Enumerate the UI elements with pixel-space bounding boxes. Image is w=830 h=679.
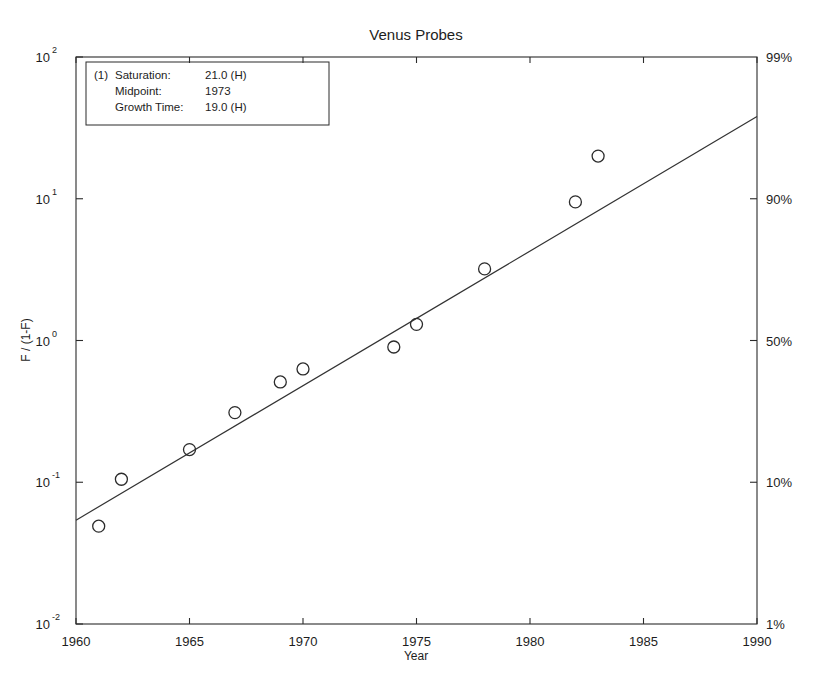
x-tick-label: 1975 xyxy=(402,634,431,649)
y-tick-label-base: 10 xyxy=(36,334,50,349)
right-tick-label: 90% xyxy=(766,192,792,207)
right-tick-label: 99% xyxy=(766,50,792,65)
chart-title: Venus Probes xyxy=(369,26,462,43)
annotation-index: (1) xyxy=(94,69,108,81)
x-tick-label: 1985 xyxy=(629,634,658,649)
x-tick-label: 1965 xyxy=(175,634,204,649)
x-tick-label: 1990 xyxy=(743,634,772,649)
y-tick-label-exponent: 2 xyxy=(52,45,57,55)
right-tick-label: 50% xyxy=(766,334,792,349)
annotation-row-1-value: 1973 xyxy=(205,85,231,97)
y-tick-label-base: 10 xyxy=(36,50,50,65)
y-tick-label-base: 10 xyxy=(36,617,50,632)
annotation-row-0-value: 21.0 (H) xyxy=(205,69,247,81)
y-tick-label-base: 10 xyxy=(36,192,50,207)
x-tick-label: 1980 xyxy=(516,634,545,649)
y-tick-label-exponent: 0 xyxy=(52,329,57,339)
y-tick-label-base: 10 xyxy=(36,475,50,490)
right-tick-label: 10% xyxy=(766,475,792,490)
x-tick-label: 1960 xyxy=(62,634,91,649)
annotation-row-2-label: Growth Time: xyxy=(115,101,183,113)
y-tick-label-exponent: -1 xyxy=(52,470,60,480)
y-axis-label: F / (1-F) xyxy=(19,318,33,361)
y-tick-label-exponent: 1 xyxy=(52,187,57,197)
venus-probes-chart: Venus Probes 196019651970197519801985199… xyxy=(0,0,830,679)
y-tick-label-exponent: -2 xyxy=(52,612,60,622)
x-tick-label: 1970 xyxy=(289,634,318,649)
x-axis-label: Year xyxy=(404,649,428,663)
annotation-row-1-label: Midpoint: xyxy=(115,85,162,97)
right-tick-label: 1% xyxy=(766,617,785,632)
annotation-row-2-value: 19.0 (H) xyxy=(205,101,247,113)
annotation-row-0-label: Saturation: xyxy=(115,69,171,81)
chart-figure: Venus Probes 196019651970197519801985199… xyxy=(0,0,830,679)
